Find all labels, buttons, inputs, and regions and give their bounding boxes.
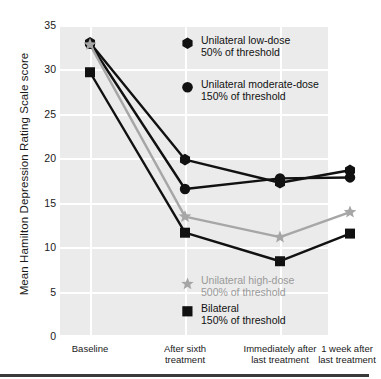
y-tick-10: 10 — [30, 241, 56, 253]
hexagon-marker-icon — [181, 37, 194, 50]
series-1-point-3 — [345, 172, 355, 182]
series-1-point-1 — [180, 184, 190, 194]
y-tick-35: 35 — [30, 19, 56, 31]
series-markers — [84, 37, 357, 266]
x-tick-1-week-after-last-treatment: 1 week after last treatment — [297, 343, 381, 365]
y-axis-tick-labels: 35 30 25 20 15 10 5 0 — [28, 0, 56, 379]
star-marker-icon — [181, 277, 194, 290]
series-3-point-3 — [345, 229, 355, 239]
legend-label-bilateral: Bilateral 150% of threshold — [201, 302, 286, 326]
series-3-point-0 — [85, 67, 95, 77]
y-tick-30: 30 — [30, 63, 56, 75]
series-line-2 — [90, 45, 350, 238]
series-3-point-2 — [275, 256, 285, 266]
series-2-point-3 — [344, 206, 357, 218]
series-lines — [90, 43, 350, 261]
legend-label-unilateral-low-dose: Unilateral low-dose 50% of threshold — [201, 34, 290, 58]
series-2-point-1 — [179, 210, 192, 222]
y-tick-5: 5 — [30, 286, 56, 298]
legend-label-unilateral-high-dose: Unilateral high-dose 500% of threshold — [201, 274, 294, 298]
series-1-point-2 — [275, 173, 285, 183]
bottom-rule — [0, 374, 369, 377]
y-tick-25: 25 — [30, 108, 56, 120]
y-tick-15: 15 — [30, 197, 56, 209]
y-tick-20: 20 — [30, 152, 56, 164]
x-axis-tick-labels: Baseline After sixth treatment Immediate… — [0, 341, 369, 371]
circle-marker-icon — [181, 81, 194, 94]
series-3-point-1 — [180, 228, 190, 238]
legend-label-unilateral-moderate-dose: Unilateral moderate-dose 150% of thresho… — [201, 78, 319, 102]
square-marker-icon — [181, 305, 194, 318]
x-tick-baseline: Baseline — [40, 343, 140, 354]
x-tick-after-sixth-treatment: After sixth treatment — [135, 343, 235, 365]
series-2-point-2 — [274, 231, 287, 243]
